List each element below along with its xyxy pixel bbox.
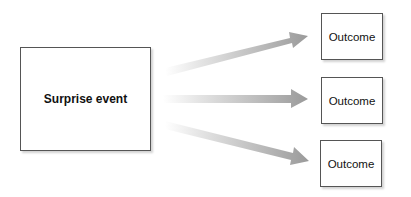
outcome-box-1: Outcome	[321, 13, 383, 60]
arrow-to-outcome-2	[163, 89, 308, 108]
surprise-event-box: Surprise event	[20, 47, 151, 151]
outcome-label: Outcome	[328, 158, 375, 170]
surprise-event-label: Surprise event	[44, 92, 127, 106]
outcome-label: Outcome	[329, 95, 376, 107]
arrow-to-outcome-1	[165, 32, 308, 76]
outcome-box-3: Outcome	[320, 140, 382, 187]
diagram-canvas: Surprise event Outcome Outcome Outcome	[0, 0, 411, 197]
outcome-label: Outcome	[329, 31, 376, 43]
arrow-to-outcome-3	[165, 121, 309, 165]
outcome-box-2: Outcome	[321, 77, 383, 124]
